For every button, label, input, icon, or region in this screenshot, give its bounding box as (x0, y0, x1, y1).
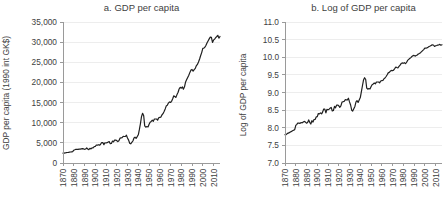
axes: 7.07.58.08.59.09.510.010.511.01870188018… (263, 17, 442, 187)
x-tick-label: 1890 (80, 168, 90, 187)
x-tick-label: 1870 (280, 168, 290, 187)
x-tick-label: 2010 (431, 168, 441, 187)
y-tick-label: 25,000 (32, 57, 58, 67)
series-line (63, 35, 220, 153)
x-tick-label: 1910 (323, 168, 333, 187)
x-tick-label: 1970 (166, 168, 176, 187)
x-tick-label: 2000 (420, 168, 430, 187)
y-tick-label: 0 (52, 158, 57, 168)
x-tick-label: 1920 (334, 168, 344, 187)
series-line (285, 44, 442, 134)
y-tick-label: 10.0 (263, 52, 280, 62)
x-tick-label: 2000 (198, 168, 208, 187)
y-tick-label: 9.5 (267, 70, 279, 80)
y-tick-label: 9.0 (267, 88, 279, 98)
grid (63, 22, 220, 143)
x-tick-label: 1990 (409, 168, 419, 187)
x-tick-label: 1960 (377, 168, 387, 187)
y-tick-label: 10,000 (32, 118, 58, 128)
y-tick-label: 7.0 (267, 158, 279, 168)
x-tick-label: 1940 (133, 168, 143, 187)
x-tick-label: 1940 (355, 168, 365, 187)
x-tick-label: 1900 (90, 168, 100, 187)
y-tick-label: 5,000 (36, 138, 57, 148)
chart-canvas-log-gdp: 7.07.58.08.59.09.510.010.511.01870188018… (222, 0, 444, 213)
x-tick-label: 1930 (345, 168, 355, 187)
y-tick-label: 20,000 (32, 77, 58, 87)
x-tick-label: 2010 (209, 168, 219, 187)
chart-canvas-gdp: 05,00010,00015,00020,00025,00030,00035,0… (0, 0, 222, 213)
y-tick-label: 35,000 (32, 17, 58, 27)
y-tick-label: 7.5 (267, 140, 279, 150)
y-tick-label: 10.5 (263, 35, 280, 45)
x-tick-label: 1920 (112, 168, 122, 187)
x-tick-label: 1960 (155, 168, 165, 187)
x-tick-label: 1970 (388, 168, 398, 187)
y-tick-label: 8.5 (267, 105, 279, 115)
x-tick-label: 1880 (69, 168, 79, 187)
x-tick-label: 1990 (187, 168, 197, 187)
x-tick-label: 1910 (101, 168, 111, 187)
gdp-per-capita-figure: a. GDP per capita b. Log of GDP per capi… (0, 0, 444, 213)
x-tick-label: 1950 (144, 168, 154, 187)
x-tick-label: 1890 (302, 168, 312, 187)
x-tick-label: 1980 (176, 168, 186, 187)
x-tick-label: 1870 (58, 168, 68, 187)
x-tick-label: 1880 (291, 168, 301, 187)
y-tick-label: 30,000 (32, 37, 58, 47)
grid (285, 22, 442, 145)
x-tick-label: 1930 (123, 168, 133, 187)
x-tick-label: 1900 (312, 168, 322, 187)
y-tick-label: 8.0 (267, 123, 279, 133)
y-tick-label: 15,000 (32, 98, 58, 108)
y-tick-label: 11.0 (263, 17, 279, 27)
x-tick-label: 1980 (398, 168, 408, 187)
x-tick-label: 1950 (366, 168, 376, 187)
